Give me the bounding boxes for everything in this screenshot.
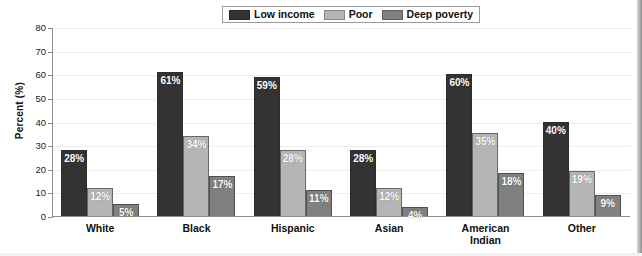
- bar-poor[interactable]: 34%: [183, 136, 209, 216]
- bar-group: 40%19%9%: [534, 27, 630, 216]
- y-axis-title: Percent (%): [14, 82, 28, 139]
- bar-value-label: 5%: [114, 207, 138, 218]
- bar-value-label: 60%: [447, 77, 471, 88]
- bar-value-label: 12%: [377, 191, 401, 202]
- legend-label-poor: Poor: [349, 9, 373, 20]
- bar-value-label: 28%: [281, 153, 305, 164]
- bar-value-label: 35%: [473, 136, 497, 147]
- bar-deep-poverty[interactable]: 4%: [402, 207, 428, 216]
- chart-legend: Low income Poor Deep poverty: [222, 6, 480, 23]
- y-axis-tick-label: 0: [26, 212, 46, 222]
- legend-label-deep-poverty: Deep poverty: [407, 9, 474, 20]
- bar-value-label: 59%: [255, 80, 279, 91]
- x-axis-line: [52, 216, 630, 217]
- plot-wrapper: Percent (%) 01020304050607080 28%12%5%61…: [0, 26, 642, 256]
- y-axis-tick-mark: [48, 217, 52, 218]
- bar-value-label: 61%: [158, 75, 182, 86]
- bar-group: 60%35%18%: [437, 27, 533, 216]
- x-axis-labels: WhiteBlackHispanicAsianAmerican IndianOt…: [52, 222, 630, 246]
- bar-value-label: 28%: [351, 153, 375, 164]
- y-axis-tick-label: 20: [26, 165, 46, 175]
- grouped-bar-chart: Low income Poor Deep poverty Percent (%)…: [0, 0, 642, 256]
- right-edge-strip: [637, 0, 642, 256]
- legend-swatch-deep-poverty: [382, 10, 403, 20]
- bar-low-income[interactable]: 61%: [157, 72, 183, 216]
- legend-swatch-poor: [324, 10, 345, 20]
- y-axis-tick-label: 40: [26, 118, 46, 128]
- legend-label-low-income: Low income: [254, 9, 315, 20]
- bars: 40%19%9%: [543, 27, 621, 216]
- legend-swatch-low-income: [229, 10, 250, 20]
- x-axis-label-asian: Asian: [341, 222, 437, 246]
- bar-poor[interactable]: 35%: [472, 133, 498, 216]
- bar-low-income[interactable]: 28%: [61, 150, 87, 216]
- plot-area: 01020304050607080 28%12%5%61%34%17%59%28…: [52, 28, 630, 217]
- bar-value-label: 34%: [184, 139, 208, 150]
- bar-groups: 28%12%5%61%34%17%59%28%11%28%12%4%60%35%…: [52, 27, 630, 216]
- bar-group: 28%12%5%: [52, 27, 148, 216]
- bar-value-label: 4%: [403, 210, 427, 221]
- bar-value-label: 17%: [210, 179, 234, 190]
- legend-item-poor[interactable]: Poor: [324, 9, 373, 20]
- bars: 59%28%11%: [254, 27, 332, 216]
- y-axis-tick-label: 80: [26, 23, 46, 33]
- bar-deep-poverty[interactable]: 17%: [209, 176, 235, 216]
- x-axis-label-other: Other: [534, 222, 630, 246]
- bar-value-label: 40%: [544, 125, 568, 136]
- bars: 61%34%17%: [157, 27, 235, 216]
- bars: 28%12%4%: [350, 27, 428, 216]
- bar-poor[interactable]: 19%: [569, 171, 595, 216]
- bar-low-income[interactable]: 28%: [350, 150, 376, 216]
- bar-value-label: 11%: [307, 193, 331, 204]
- bar-value-label: 12%: [88, 191, 112, 202]
- x-axis-label-american: American Indian: [437, 222, 533, 246]
- bar-low-income[interactable]: 60%: [446, 74, 472, 216]
- legend-item-deep-poverty[interactable]: Deep poverty: [382, 9, 474, 20]
- bar-poor[interactable]: 12%: [376, 188, 402, 216]
- bar-deep-poverty[interactable]: 9%: [595, 195, 621, 216]
- y-axis-tick-label: 70: [26, 47, 46, 57]
- bar-poor[interactable]: 28%: [280, 150, 306, 216]
- bar-deep-poverty[interactable]: 18%: [498, 173, 524, 216]
- y-axis-tick-label: 30: [26, 141, 46, 151]
- bar-poor[interactable]: 12%: [87, 188, 113, 216]
- bar-group: 59%28%11%: [245, 27, 341, 216]
- bar-group: 28%12%4%: [341, 27, 437, 216]
- x-axis-label-hispanic: Hispanic: [245, 222, 341, 246]
- bar-low-income[interactable]: 40%: [543, 122, 569, 217]
- x-axis-label-white: White: [52, 222, 148, 246]
- bar-group: 61%34%17%: [148, 27, 244, 216]
- bars: 28%12%5%: [61, 27, 139, 216]
- bars: 60%35%18%: [446, 27, 524, 216]
- bar-deep-poverty[interactable]: 5%: [113, 204, 139, 216]
- legend-item-low-income[interactable]: Low income: [229, 9, 315, 20]
- bar-value-label: 28%: [62, 153, 86, 164]
- bar-value-label: 9%: [596, 198, 620, 209]
- bar-deep-poverty[interactable]: 11%: [306, 190, 332, 216]
- bar-value-label: 19%: [570, 174, 594, 185]
- bar-value-label: 18%: [499, 176, 523, 187]
- x-axis-label-black: Black: [148, 222, 244, 246]
- bar-low-income[interactable]: 59%: [254, 77, 280, 216]
- y-axis-tick-label: 10: [26, 189, 46, 199]
- y-axis-tick-label: 60: [26, 71, 46, 81]
- y-axis-tick-label: 50: [26, 94, 46, 104]
